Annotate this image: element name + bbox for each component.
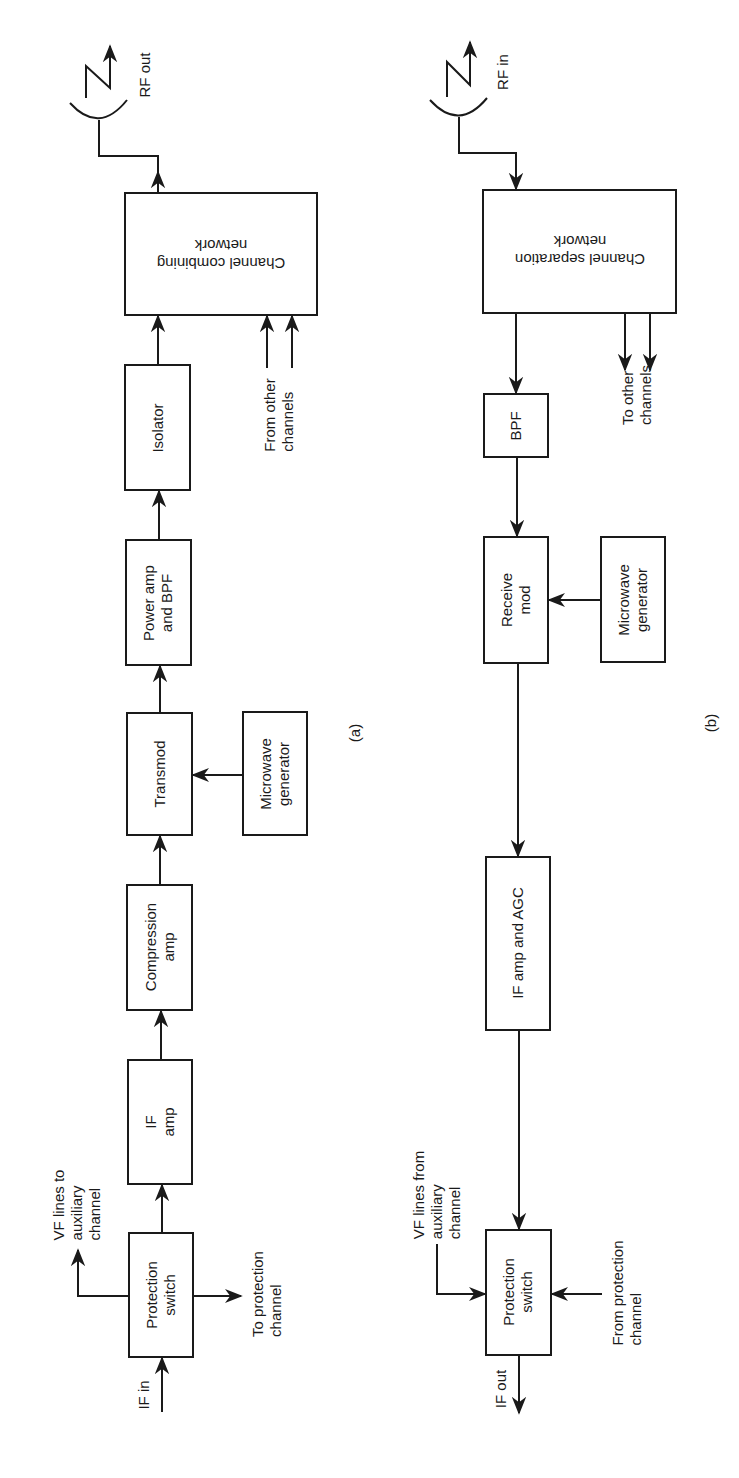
label-a-rf-out: RF out: [136, 52, 154, 97]
label-line: generator: [633, 564, 651, 636]
label-b-channel-separation: Channel separation network: [515, 232, 645, 268]
label-line: IF: [142, 1107, 160, 1136]
arrow-a-vf-aux: [78, 1250, 129, 1296]
label-line: RF out: [136, 52, 154, 97]
label-line: BPF: [507, 411, 525, 440]
label-line: switch: [161, 1261, 179, 1329]
label-b-if-out: IF out: [492, 1370, 510, 1408]
label-b-to-other: To other channels: [619, 365, 655, 425]
label-line: channels: [279, 378, 297, 451]
label-b-from-protection: From protection channel: [609, 1240, 645, 1345]
arrow-b-vf-aux: [437, 1244, 485, 1294]
label-line: channel: [267, 1251, 285, 1337]
label-a-power-amp: Power amp and BPF: [140, 565, 176, 641]
label-line: To protection: [249, 1251, 267, 1337]
label-line: Isolator: [149, 403, 167, 452]
label-a-compression-amp: Compression amp: [142, 903, 178, 991]
label-line: RF in: [494, 54, 512, 90]
label-line: auxiliary: [428, 1151, 446, 1239]
label-line: and BPF: [158, 565, 176, 641]
caption-a: (a): [346, 724, 364, 742]
label-line: (a): [346, 724, 364, 742]
label-line: From other: [261, 378, 279, 451]
label-line: amp: [160, 903, 178, 991]
label-a-channel-combining: Channel combining network: [157, 236, 285, 272]
label-line: Microwave: [257, 738, 275, 810]
label-line: (b): [702, 714, 720, 732]
label-line: Microwave: [615, 564, 633, 636]
label-a-transmod: Transmod: [151, 741, 169, 808]
label-line: amp: [160, 1107, 178, 1136]
label-line: IF in: [135, 1380, 153, 1409]
label-line: VF lines to: [50, 1170, 68, 1241]
label-line: generator: [275, 738, 293, 810]
label-line: Channel separation: [515, 250, 645, 268]
label-line: switch: [518, 1258, 536, 1326]
label-line: mod: [516, 573, 534, 627]
label-line: Protection: [500, 1258, 518, 1326]
label-line: channels: [637, 365, 655, 425]
label-line: Power amp: [140, 565, 158, 641]
antenna-icon: [70, 46, 127, 118]
label-line: To other: [619, 365, 637, 425]
label-b-vf-lines: VF lines from auxiliary channel: [410, 1151, 464, 1239]
label-line: network: [515, 232, 645, 250]
label-b-bpf: BPF: [507, 411, 525, 440]
label-a-if-in: IF in: [135, 1380, 153, 1409]
arrow-b-antenna-csn: [459, 117, 516, 189]
label-line: Protection: [143, 1261, 161, 1329]
label-b-receive-mod: Receive mod: [498, 573, 534, 627]
label-line: IF amp and AGC: [509, 887, 527, 999]
label-line: Compression: [142, 903, 160, 991]
label-line: auxiliary: [68, 1170, 86, 1241]
label-line: Transmod: [151, 741, 169, 808]
label-b-if-amp-agc: IF amp and AGC: [509, 887, 527, 999]
label-line: VF lines from: [410, 1151, 428, 1239]
label-line: network: [157, 236, 285, 254]
label-b-microwave-gen: Microwave generator: [615, 564, 651, 636]
label-line: channel: [627, 1240, 645, 1345]
label-a-vf-lines: VF lines to auxiliary channel: [50, 1170, 104, 1241]
label-b-rf-in: RF in: [494, 54, 512, 90]
arrow-a-ccn-antenna: [99, 120, 158, 193]
label-line: From protection: [609, 1240, 627, 1345]
label-line: channel: [86, 1170, 104, 1241]
label-a-microwave-gen: Microwave generator: [257, 738, 293, 810]
label-line: Receive: [498, 573, 516, 627]
label-a-protection-switch: Protection switch: [143, 1261, 179, 1329]
label-line: channel: [446, 1151, 464, 1239]
label-b-protection-switch: Protection switch: [500, 1258, 536, 1326]
caption-b: (b): [702, 714, 720, 732]
antenna-icon: [430, 42, 487, 116]
label-a-if-amp: IF amp: [142, 1107, 178, 1136]
label-a-from-other: From other channels: [261, 378, 297, 451]
label-a-to-protection: To protection channel: [249, 1251, 285, 1337]
label-line: IF out: [492, 1370, 510, 1408]
label-a-isolator: Isolator: [149, 403, 167, 452]
label-line: Channel combining: [157, 254, 285, 272]
